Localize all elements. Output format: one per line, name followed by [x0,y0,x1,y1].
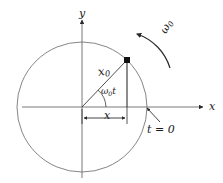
x-axis-label: x [209,101,215,112]
y-axis-label: y [79,8,85,19]
t-zero-leader-line [147,108,160,122]
angle-label: ω0t [101,87,116,96]
angle-time-symbol: t [112,86,116,96]
t-zero-label: t = 0 [147,124,175,135]
particle-marker [124,57,130,63]
angular-velocity-arrow [137,34,170,68]
radius-vector-label: x0 [97,64,111,78]
projection-label: x [104,110,110,121]
angle-omega-subscript: 0 [108,90,112,97]
circular-motion-diagram: y x x0 ω0t x ω0 t = 0 [0,0,223,183]
